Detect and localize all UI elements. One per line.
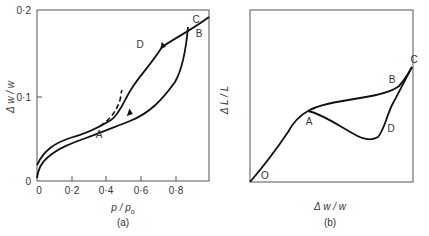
panel-a-label-D: D — [136, 39, 143, 50]
panel-a-lower-branch — [37, 27, 188, 178]
panel-a-label-A: A — [96, 129, 103, 140]
panel-a-caption: (a) — [117, 217, 129, 228]
panel-b-label-B: B — [389, 74, 396, 85]
panel-a-xtick-0-6: 0·6 — [134, 185, 149, 196]
panel-b-ylabel: Δ L / L — [219, 86, 230, 115]
panel-a-ytick-0: 0 — [25, 176, 31, 187]
panel-b-curve-ADC — [308, 67, 412, 139]
panel-a-xlabel: p / po — [110, 202, 134, 215]
panel-a: 0 0·1 0·2 0 0·2 0·4 0·6 0·8 A D C B Δ w … — [5, 5, 209, 228]
panel-b-label-O: O — [261, 170, 269, 181]
figure: 0 0·1 0·2 0 0·2 0·4 0·6 0·8 A D C B Δ w … — [0, 0, 429, 236]
panel-a-label-B: B — [196, 28, 203, 39]
panel-a-xtick-0-4: 0·4 — [99, 185, 114, 196]
panel-a-upper-branch — [37, 17, 209, 165]
panel-b-label-A: A — [306, 116, 313, 127]
panel-b-xlabel: Δ w / w — [313, 201, 347, 212]
panel-a-xtick-0-2: 0·2 — [65, 185, 80, 196]
panel-b-label-C: C — [410, 54, 417, 65]
panel-a-label-C: C — [192, 14, 199, 25]
panel-b: O A B C D Δ L / L Δ w / w (b) — [219, 10, 418, 228]
panel-a-arrow-lower — [127, 109, 134, 118]
panel-a-ytick-0-1: 0·1 — [17, 92, 32, 103]
panel-a-xtick-0: 0 — [36, 185, 42, 196]
panel-a-x-ticks — [72, 176, 176, 181]
panel-a-ylabel: Δ w / w — [5, 80, 16, 114]
panel-a-upper-curve-visible — [37, 17, 209, 165]
panel-a-ytick-0-2: 0·2 — [17, 5, 32, 16]
panel-b-plot-frame — [250, 10, 413, 182]
panel-a-xtick-0-8: 0·8 — [169, 185, 184, 196]
panel-b-caption: (b) — [324, 217, 336, 228]
panel-b-label-D: D — [387, 123, 394, 134]
